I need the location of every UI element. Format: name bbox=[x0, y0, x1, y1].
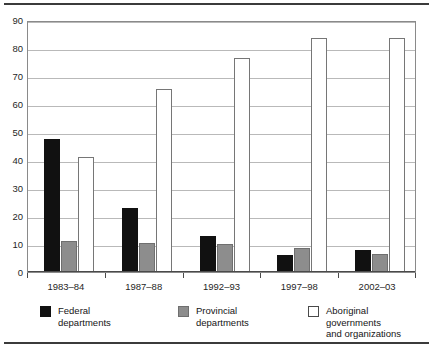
y-tick-label: 70 bbox=[1, 72, 23, 82]
figure: 0102030405060708090 1983–841987–881992–9… bbox=[0, 0, 431, 349]
plot-area bbox=[27, 21, 416, 273]
y-tick-label: 60 bbox=[1, 100, 23, 110]
legend-label: Aboriginal governments and organizations bbox=[326, 305, 420, 340]
x-axis-ticks bbox=[27, 273, 416, 279]
y-tick-label: 40 bbox=[1, 156, 23, 166]
x-tick-label: 2002–03 bbox=[359, 281, 396, 293]
federal-swatch bbox=[40, 306, 51, 317]
x-axis-tick-labels: 1983–841987–881992–931997–982002–03 bbox=[27, 281, 416, 295]
y-tick-label: 0 bbox=[1, 268, 23, 278]
x-tick bbox=[415, 273, 416, 278]
bar-aboriginal-2002-03 bbox=[389, 38, 405, 272]
legend-item[interactable]: Federal departments bbox=[40, 305, 111, 328]
legend-label: Provincial departments bbox=[196, 305, 249, 328]
y-tick-label: 30 bbox=[1, 184, 23, 194]
chart-legend: Federal departmentsProvincial department… bbox=[40, 305, 420, 337]
y-tick-label: 80 bbox=[1, 44, 23, 54]
bar-provincial-2002-03 bbox=[372, 254, 388, 272]
bottom-rule bbox=[4, 342, 429, 344]
x-tick bbox=[27, 273, 28, 278]
x-tick bbox=[105, 273, 106, 278]
y-tick-label: 90 bbox=[1, 16, 23, 26]
x-tick bbox=[183, 273, 184, 278]
x-tick-label: 1987–88 bbox=[125, 281, 162, 293]
x-tick bbox=[338, 273, 339, 278]
x-tick bbox=[260, 273, 261, 278]
x-axis-baseline bbox=[28, 271, 415, 272]
aboriginal-swatch bbox=[308, 306, 319, 317]
y-tick-label: 10 bbox=[1, 240, 23, 250]
provincial-swatch bbox=[178, 306, 189, 317]
y-axis-tick-labels: 0102030405060708090 bbox=[0, 21, 27, 273]
x-tick-label: 1983–84 bbox=[47, 281, 84, 293]
legend-label: Federal departments bbox=[58, 305, 111, 328]
legend-item[interactable]: Aboriginal governments and organizations bbox=[308, 305, 420, 340]
bar-group bbox=[28, 22, 417, 272]
y-tick-label: 50 bbox=[1, 128, 23, 138]
x-tick-label: 1992–93 bbox=[203, 281, 240, 293]
legend-item[interactable]: Provincial departments bbox=[178, 305, 249, 328]
y-tick-label: 20 bbox=[1, 212, 23, 222]
top-rule bbox=[4, 3, 429, 5]
bar-federal-2002-03 bbox=[355, 250, 371, 272]
x-tick-label: 1997–98 bbox=[281, 281, 318, 293]
